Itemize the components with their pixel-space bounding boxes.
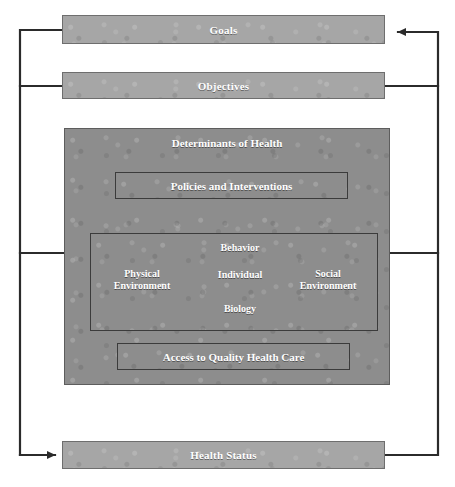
node-behavior: Behavior: [208, 242, 272, 254]
social-environment-line1: Social: [290, 268, 366, 280]
social-environment-line2: Environment: [290, 280, 366, 292]
node-individual: Individual: [206, 269, 274, 281]
determinants-title: Determinants of Health: [65, 137, 389, 149]
left-feedback-spine: [20, 30, 62, 455]
goals-bar: Goals: [62, 15, 385, 44]
physical-environment-line2: Environment: [104, 280, 180, 292]
biology-label: Biology: [224, 303, 256, 314]
diagram-canvas: Goals Objectives Determinants of Health …: [0, 0, 455, 487]
right-feedback-spine: [385, 32, 438, 455]
goals-label: Goals: [210, 24, 238, 36]
node-biology: Biology: [210, 303, 270, 315]
health-status-bar: Health Status: [62, 441, 385, 469]
physical-environment-line1: Physical: [104, 268, 180, 280]
objectives-bar: Objectives: [62, 72, 385, 99]
policies-and-interventions-box: Policies and Interventions: [115, 172, 348, 199]
behavior-label: Behavior: [221, 242, 260, 253]
node-physical-environment: Physical Environment: [104, 268, 180, 291]
health-status-label: Health Status: [190, 449, 256, 461]
policies-label: Policies and Interventions: [171, 180, 293, 192]
individual-label: Individual: [218, 269, 262, 280]
access-to-quality-health-care-box: Access to Quality Health Care: [117, 343, 350, 370]
objectives-label: Objectives: [198, 80, 249, 92]
node-social-environment: Social Environment: [290, 268, 366, 291]
access-label: Access to Quality Health Care: [163, 351, 305, 363]
